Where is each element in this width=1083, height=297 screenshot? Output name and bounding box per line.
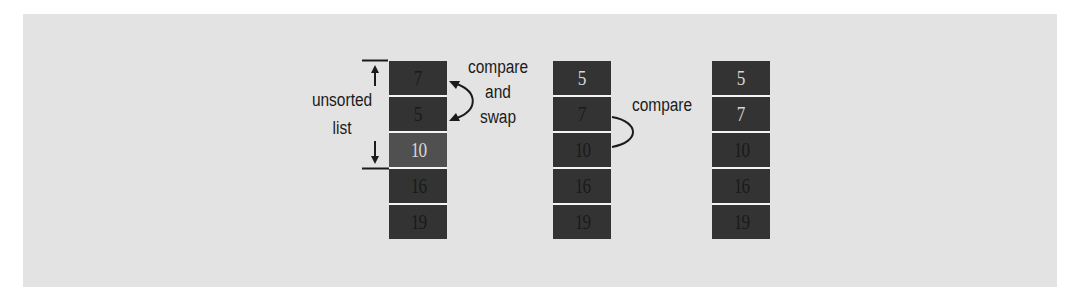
annotation-lines [0,0,1083,297]
compare-curve-icon [612,117,633,147]
swap-arrow-icon [449,81,473,121]
unsorted-range-bracket-icon [362,61,389,169]
